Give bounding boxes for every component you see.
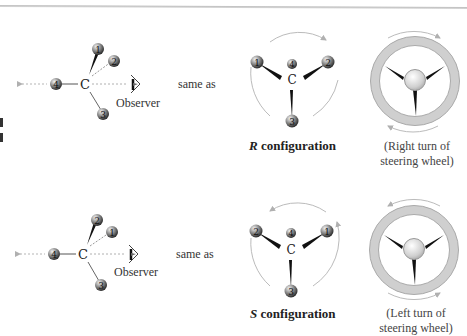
caption-line-1: (Right turn of [372, 139, 462, 154]
caption-line-2: steering wheel) [370, 321, 462, 336]
r-projection: 1 4 2 3 C [251, 32, 339, 127]
config-letter: R [249, 138, 258, 153]
steering-wheel-left [370, 199, 459, 299]
rotation-arrow-right [313, 80, 338, 116]
observer-eye-icon [131, 75, 140, 93]
atom-4: 4 [286, 228, 296, 238]
atom-2: 2 [108, 55, 120, 67]
atom-4: 4 [287, 59, 297, 69]
hashed-bond [92, 62, 111, 76]
svg-text:4: 4 [51, 250, 57, 260]
svg-text:3: 3 [98, 281, 104, 291]
config-letter: S [250, 306, 257, 321]
atom-4: 4 [48, 248, 60, 260]
config-word: configuration [261, 138, 336, 153]
atom-3: 3 [97, 108, 109, 120]
atom-4: 4 [50, 78, 62, 90]
atom-1: 1 [321, 225, 334, 238]
svg-text:1: 1 [109, 228, 115, 238]
carbon-label: C [80, 77, 90, 92]
svg-text:1: 1 [324, 227, 330, 237]
caption-line-2: steering wheel) [372, 154, 462, 169]
atom-2: 2 [250, 225, 263, 238]
atom-3: 3 [286, 115, 299, 128]
caption-line-1: (Left turn of [370, 306, 462, 321]
same-as-label: same as [176, 247, 214, 262]
s-projection: 2 4 1 3 C [250, 203, 340, 298]
svg-text:4: 4 [288, 229, 293, 238]
svg-text:C: C [286, 243, 295, 257]
rotation-arrow-top [270, 32, 326, 42]
svg-text:2: 2 [111, 57, 117, 67]
svg-text:2: 2 [253, 227, 259, 237]
svg-text:2: 2 [94, 216, 100, 226]
right-turn-caption: (Right turn of steering wheel) [372, 139, 462, 169]
observer-eye-icon [129, 245, 138, 263]
atom-1: 1 [251, 56, 264, 69]
svg-text:C: C [287, 73, 296, 87]
steering-wheel-right [371, 31, 460, 132]
svg-text:3: 3 [288, 287, 294, 297]
svg-text:3: 3 [289, 117, 295, 127]
atom-3: 3 [95, 279, 107, 291]
left-turn-caption: (Left turn of steering wheel) [370, 306, 462, 336]
config-word: configuration [260, 306, 335, 321]
svg-text:3: 3 [100, 110, 106, 120]
atom-1: 1 [106, 226, 118, 238]
svg-text:2: 2 [325, 58, 331, 68]
r-configuration-label: R configuration [249, 138, 336, 154]
same-as-label: same as [178, 77, 216, 92]
svg-text:4: 4 [289, 60, 294, 69]
observer-label: Observer [114, 265, 158, 280]
atom-2: 2 [91, 214, 103, 226]
atom-3: 3 [285, 285, 298, 298]
svg-text:C: C [78, 247, 88, 262]
svg-text:4: 4 [53, 80, 59, 90]
svg-text:1: 1 [95, 45, 101, 55]
svg-text:1: 1 [254, 58, 260, 68]
atom-2: 2 [322, 56, 335, 69]
atom-1: 1 [92, 43, 104, 55]
observer-label: Observer [116, 96, 160, 111]
rotation-arrow-left [251, 67, 270, 116]
s-configuration-label: S configuration [250, 306, 336, 322]
